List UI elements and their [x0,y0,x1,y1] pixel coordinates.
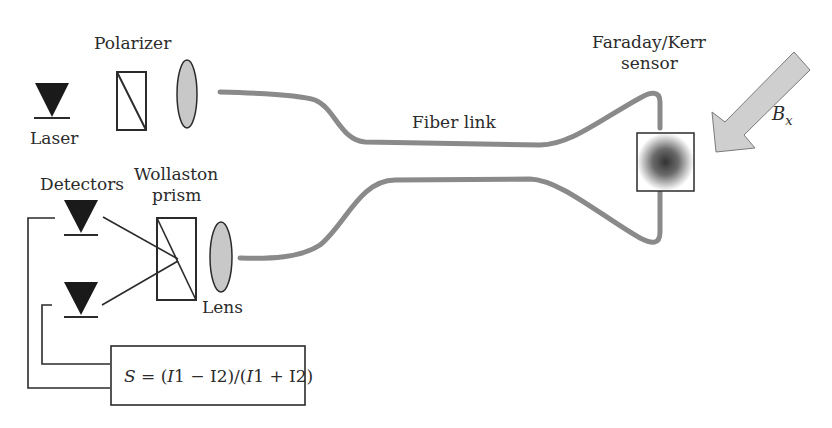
detector-2-icon [64,282,98,317]
lens-label: Lens [202,297,243,317]
normalized-signal-formula: S = (I1 − I2)/(I1 + I2) [124,366,313,386]
wollaston-prism-icon [157,218,196,300]
sensor-label-line1: Faraday/Kerr [592,32,707,52]
beam-to-detector-2 [102,261,178,305]
magnetic-field-arrow-icon [712,52,810,152]
polarizer-icon [117,72,146,130]
detector-2-wire [42,305,110,364]
laser-icon [34,83,70,118]
field-symbol-label: Bx [771,103,793,128]
fiber-optic-magnetic-sensor-diagram: Polarizer Laser Fiber link Faraday/Kerr … [0,0,832,428]
output-lens-icon [210,222,232,292]
fiber-link-label: Fiber link [412,112,497,132]
laser-label: Laser [30,128,79,148]
detectors-label: Detectors [40,174,124,194]
sensor-label-line2: sensor [621,53,679,73]
fiber-lower-path [240,179,660,258]
detector-1-wire [28,218,110,388]
input-lens-icon [177,60,197,128]
faraday-kerr-sensor-icon [637,133,694,191]
wollaston-label-line2: prism [152,185,201,205]
detector-1-icon [64,200,98,235]
polarizer-label: Polarizer [94,33,172,53]
wollaston-label-line1: Wollaston [134,164,218,184]
